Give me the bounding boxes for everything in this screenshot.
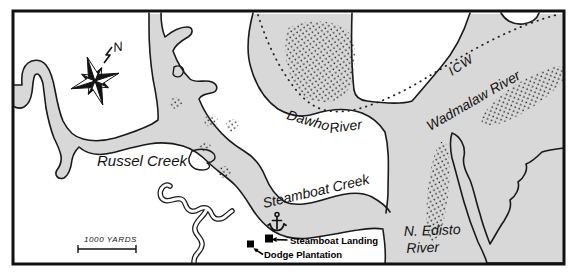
- coastal-map: N 1000 YARDS Russel Creek Steamboat Cree…: [0, 0, 576, 279]
- label-dodge-plantation: Dodge Plantation: [264, 249, 342, 260]
- dodge-plantation-marker: [247, 241, 254, 248]
- label-steamboat-landing: Steamboat Landing: [290, 235, 378, 246]
- map-page: N 1000 YARDS Russel Creek Steamboat Cree…: [0, 0, 576, 279]
- svg-text:N. Edisto: N. Edisto: [404, 221, 462, 239]
- label-russel-creek: Russel Creek: [97, 152, 189, 169]
- scale-bar-label: 1000 YARDS: [84, 235, 137, 244]
- svg-text:River: River: [406, 239, 441, 256]
- steamboat-landing-marker: [265, 235, 273, 243]
